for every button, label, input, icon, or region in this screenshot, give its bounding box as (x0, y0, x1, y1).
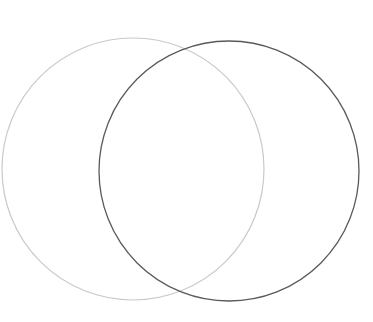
venn-diagram-svg (0, 0, 373, 322)
venn-diagram-canvas (0, 0, 373, 322)
